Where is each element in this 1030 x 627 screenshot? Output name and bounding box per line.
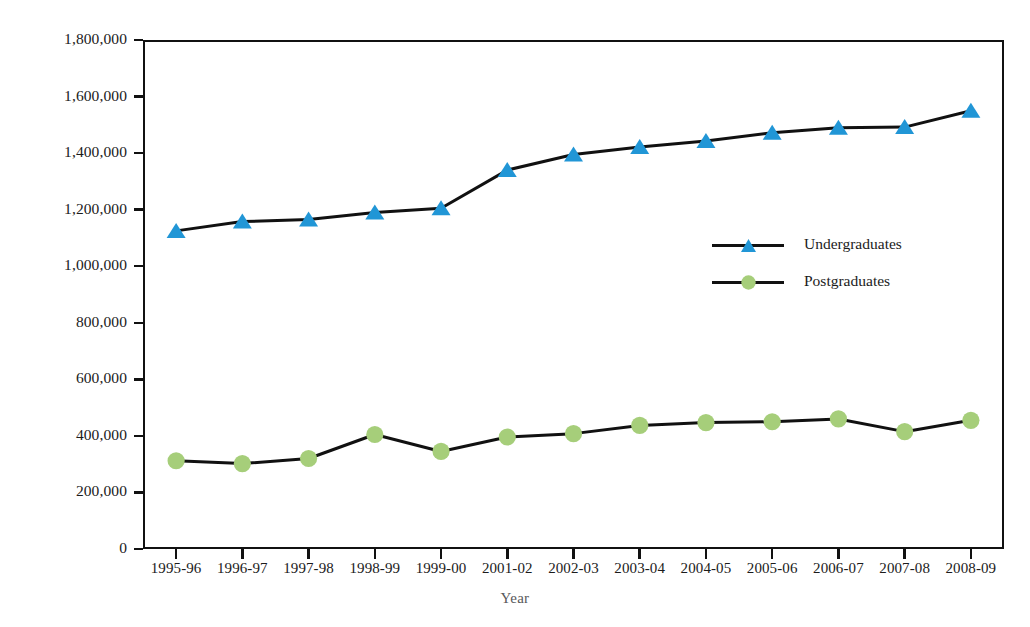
y-tick-label: 1,200,000	[0, 200, 127, 218]
x-tick-label: 1999-00	[408, 560, 474, 577]
circle-marker-icon	[740, 274, 757, 291]
x-tick-mark	[506, 549, 509, 559]
y-tick-label: 400,000	[0, 426, 127, 444]
x-tick-label: 1998-99	[342, 560, 408, 577]
x-tick-mark	[638, 549, 641, 559]
legend-item-postgraduates[interactable]: Postgraduates	[712, 269, 962, 306]
x-axis-title: Year	[0, 590, 1030, 607]
x-tick-label: 2005-06	[739, 560, 805, 577]
chart-container: No. of students 0200,000400,000600,00080…	[0, 0, 1030, 627]
y-tick-mark	[134, 435, 143, 438]
x-tick-label: 1996-97	[209, 560, 275, 577]
x-tick-label: 1997-98	[275, 560, 341, 577]
y-tick-mark	[134, 378, 143, 381]
x-tick-mark	[771, 549, 774, 559]
y-tick-mark	[134, 548, 143, 551]
x-tick-label: 2001-02	[474, 560, 540, 577]
x-tick-mark	[440, 549, 443, 559]
y-tick-mark	[134, 152, 143, 155]
y-tick-mark	[134, 322, 143, 325]
legend-label-postgraduates: Postgraduates	[804, 272, 890, 290]
legend-label-undergraduates: Undergraduates	[804, 235, 902, 253]
y-tick-label: 1,400,000	[0, 143, 127, 161]
y-tick-label: 1,800,000	[0, 30, 127, 48]
y-tick-mark	[134, 95, 143, 98]
chart-legend: Undergraduates Postgraduates	[712, 232, 962, 306]
y-tick-label: 800,000	[0, 313, 127, 331]
x-tick-mark	[903, 549, 906, 559]
x-tick-label: 2007-08	[872, 560, 938, 577]
x-tick-mark	[572, 549, 575, 559]
x-tick-label: 2002-03	[540, 560, 606, 577]
x-tick-mark	[307, 549, 310, 559]
y-tick-label: 0	[0, 539, 127, 557]
y-tick-mark	[134, 265, 143, 268]
triangle-marker-icon	[740, 237, 757, 254]
y-tick-label: 1,600,000	[0, 87, 127, 105]
x-tick-mark	[837, 549, 840, 559]
y-tick-mark	[134, 491, 143, 494]
y-tick-mark	[134, 208, 143, 211]
y-tick-label: 200,000	[0, 482, 127, 500]
x-tick-mark	[705, 549, 708, 559]
legend-item-undergraduates[interactable]: Undergraduates	[712, 232, 962, 269]
y-tick-label: 1,000,000	[0, 256, 127, 274]
x-tick-label: 2008-09	[938, 560, 1004, 577]
x-tick-label: 2004-05	[673, 560, 739, 577]
x-tick-label: 2006-07	[805, 560, 871, 577]
x-tick-mark	[241, 549, 244, 559]
x-tick-mark	[970, 549, 973, 559]
x-tick-mark	[374, 549, 377, 559]
x-tick-label: 2003-04	[607, 560, 673, 577]
x-tick-label: 1995-96	[143, 560, 209, 577]
y-tick-label: 600,000	[0, 369, 127, 387]
y-tick-mark	[134, 39, 143, 42]
x-tick-mark	[175, 549, 178, 559]
